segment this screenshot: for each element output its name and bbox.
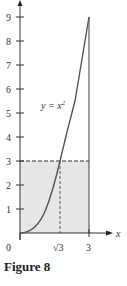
curve-label: y = x2 (40, 99, 66, 111)
y-label-7: 7 (6, 60, 11, 71)
x-label-0: 0 (6, 242, 11, 253)
y-label-4: 4 (6, 132, 11, 143)
y-label-9: 9 (6, 12, 11, 23)
x-label-3: 3 (86, 242, 91, 253)
y-label-5: 5 (6, 108, 11, 119)
y-label-1: 1 (6, 204, 11, 215)
figure-caption: Figure 8 (4, 259, 50, 275)
y-label-2: 2 (6, 180, 11, 191)
parabola-chart: 1 2 3 4 5 6 7 8 9 0 √3 3 x y = x2 (0, 0, 127, 256)
x-axis-arrow-icon (106, 231, 113, 236)
y-label-8: 8 (6, 36, 11, 47)
x-axis-label: x (115, 228, 121, 239)
y-label-6: 6 (6, 84, 11, 95)
x-label-sqrt3: √3 (53, 242, 64, 253)
shaded-region (20, 161, 89, 233)
y-label-3: 3 (6, 156, 11, 167)
y-axis-arrow-icon (18, 0, 23, 6)
